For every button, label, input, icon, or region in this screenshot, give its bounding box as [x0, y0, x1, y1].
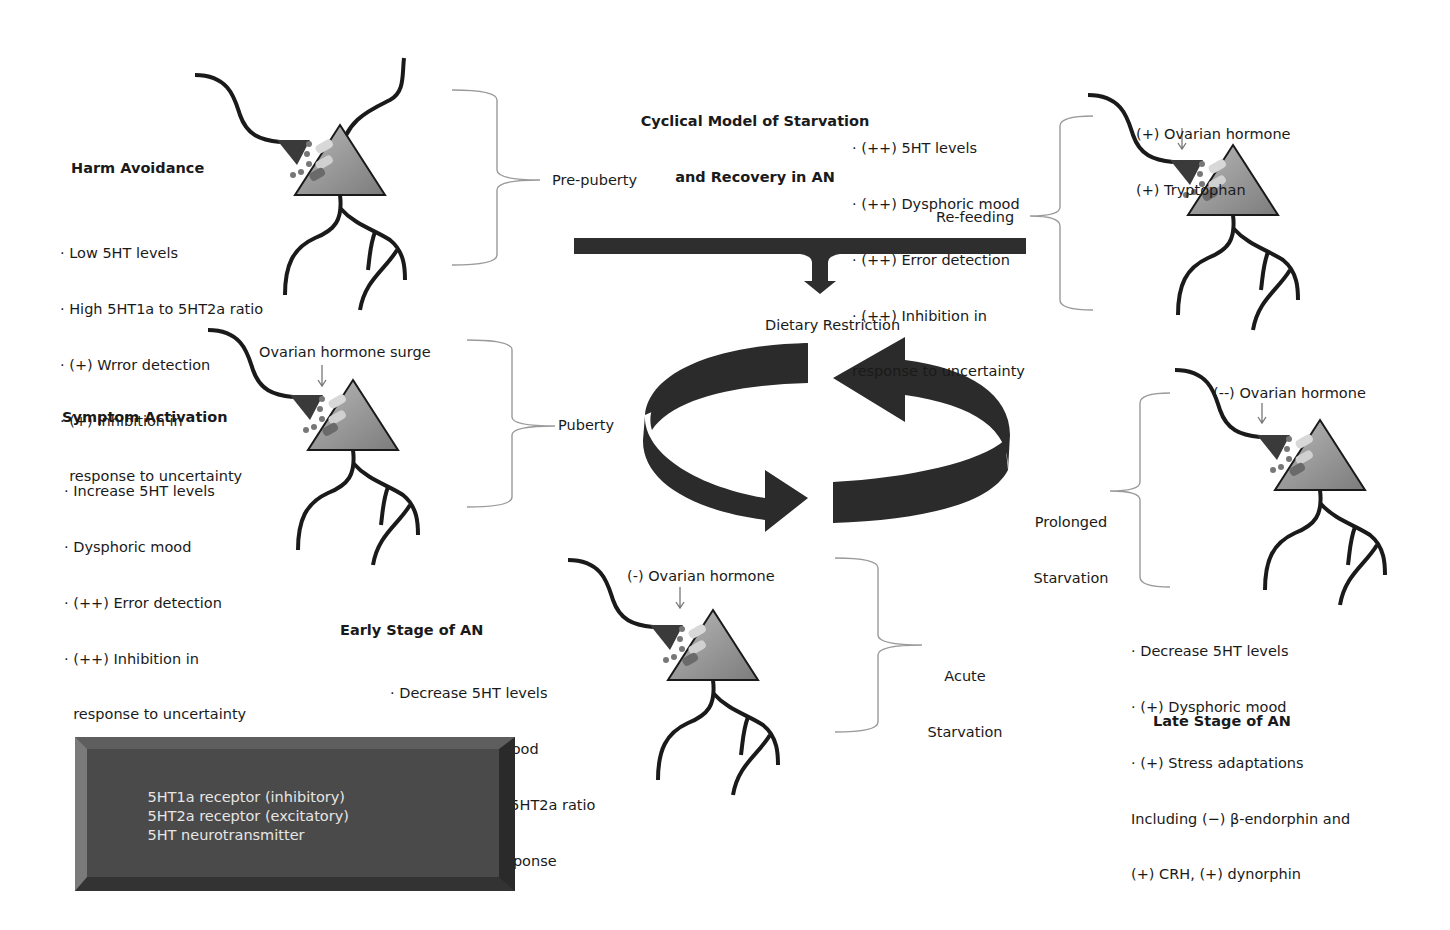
ovarian-surge-label: Ovarian hormone surge: [259, 343, 431, 362]
late-hormone-label: (--) Ovarian hormone: [1213, 384, 1366, 403]
list-item: · Dysphoric mood: [64, 538, 246, 557]
phase-prolonged-line-1: Prolonged: [1026, 513, 1116, 532]
refeeding-hormone-label: (+) Ovarian hormone (+) Tryptophan: [1136, 88, 1291, 218]
list-item: · Low 5HT levels: [60, 244, 263, 263]
list-item: · (++) 5HT levels: [852, 139, 1025, 158]
list-item: · (++) Error detection: [64, 594, 246, 613]
phase-prolonged-line-2: Starvation: [1026, 569, 1116, 588]
phase-prolonged-starvation: Prolonged Starvation: [1026, 476, 1116, 606]
phase-acute-line-1: Acute: [920, 667, 1010, 686]
late-stage-heading: Late Stage of AN: [1153, 712, 1291, 731]
dietary-restriction-label: Dietary Restriction: [765, 316, 900, 335]
early-hormone-label: (-) Ovarian hormone: [627, 567, 775, 586]
list-item: response to uncertainty: [64, 705, 246, 724]
list-item: · Decrease 5HT levels: [1131, 642, 1350, 661]
early-stage-heading: Early Stage of AN: [340, 621, 483, 640]
legend-box: 5HT1a receptor (inhibitory) 5HT2a recept…: [75, 737, 515, 891]
hormone-line-1: (+) Ovarian hormone: [1136, 125, 1291, 144]
list-item: · (++) Inhibition in: [64, 650, 246, 669]
symptom-activation-heading: Symptom Activation: [62, 408, 228, 427]
refeeding-list: · (++) 5HT levels · (++) Dysphoric mood …: [852, 102, 1025, 400]
neuron-early-stage: [568, 560, 778, 795]
neuron-late-stage: [1175, 370, 1385, 605]
list-item: · (+) Stress adaptations: [1131, 754, 1350, 773]
list-item: · (+) Wrror detection: [60, 356, 263, 375]
list-item: (+) CRH, (+) dynorphin: [1131, 865, 1350, 884]
title-line-2: and Recovery in AN: [640, 168, 870, 187]
list-item: · Decrease 5HT levels: [390, 684, 595, 703]
list-item: · (++) Error detection: [852, 251, 1025, 270]
phase-refeeding: Re-feeding: [936, 208, 1014, 227]
title-line-1: Cyclical Model of Starvation: [640, 112, 870, 131]
list-item: · High 5HT1a to 5HT2a ratio: [60, 300, 263, 319]
list-item: response to uncertainty: [852, 362, 1025, 381]
phase-acute-line-2: Starvation: [920, 723, 1010, 742]
legend-label: 5HT neurotransmitter: [147, 827, 304, 843]
hormone-line-2: (+) Tryptophan: [1136, 181, 1291, 200]
phase-pre-puberty: Pre-puberty: [552, 171, 637, 190]
list-item: · Increase 5HT levels: [64, 482, 246, 501]
legend-item-5ht: 5HT neurotransmitter: [129, 811, 305, 859]
phase-acute-starvation: Acute Starvation: [920, 630, 1010, 760]
harm-avoidance-heading: Harm Avoidance: [71, 159, 204, 178]
diagram-title: Cyclical Model of Starvation and Recover…: [640, 75, 870, 205]
late-stage-list: · Decrease 5HT levels · (+) Dysphoric mo…: [1131, 605, 1350, 903]
phase-puberty: Puberty: [558, 416, 614, 435]
list-item: Including (−) β-endorphin and: [1131, 810, 1350, 829]
symptom-activation-list: · Increase 5HT levels · Dysphoric mood ·…: [64, 445, 246, 743]
